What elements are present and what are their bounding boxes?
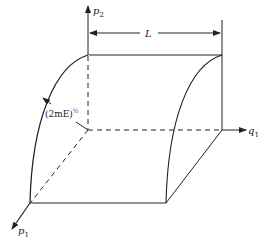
p1-hidden-dashed xyxy=(31,130,88,202)
radius-label: (2mE)½ xyxy=(45,107,79,119)
phase-space-diagram: p2 L q1 p1 (2mE)½ xyxy=(0,0,270,238)
length-label: L xyxy=(144,28,152,39)
corner-tick xyxy=(76,122,88,130)
length-dimension xyxy=(90,20,222,55)
left-quarter-circle xyxy=(30,55,88,203)
right-bottom-edge xyxy=(166,130,222,203)
right-quarter-circle xyxy=(166,55,222,203)
p1-axis-label: p1 xyxy=(18,225,29,238)
q1-axis-label: q1 xyxy=(248,125,259,139)
p2-axis-label: p2 xyxy=(93,5,104,19)
